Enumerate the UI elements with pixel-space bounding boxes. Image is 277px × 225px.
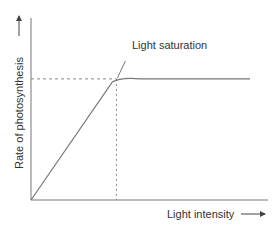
annotation-pointer xyxy=(117,61,125,78)
annotation-label: Light saturation xyxy=(132,39,207,51)
chart-svg: Light saturation Rate of photosynthesis … xyxy=(0,0,277,225)
diagram: Light saturation Rate of photosynthesis … xyxy=(0,0,277,225)
y-axis-label: Rate of photosynthesis xyxy=(13,57,25,169)
x-axis-label: Light intensity xyxy=(167,208,235,220)
photosynthesis-curve xyxy=(31,78,250,200)
